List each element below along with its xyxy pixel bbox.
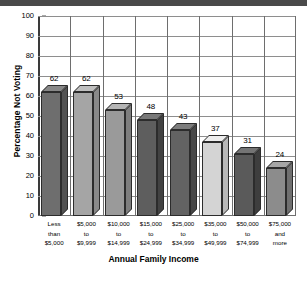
bar-front-face [170, 130, 190, 216]
bar[interactable] [202, 142, 222, 216]
bar-front-face [266, 168, 286, 216]
x-axis-tick-label-line: $74,999 [232, 238, 264, 248]
y-axis-tick-label: 80 [8, 52, 34, 60]
x-axis-tick-label-line: $24,999 [135, 238, 167, 248]
bar-value-label: 48 [131, 102, 171, 111]
x-axis-tick-label-line: Less [38, 219, 70, 229]
x-axis-tick-label: $5,000to$9,999 [70, 219, 102, 248]
x-axis-tick-label-line: $34,999 [167, 238, 199, 248]
x-axis-tick-label-line: to [103, 229, 135, 239]
y-axis-tick-label: 30 [8, 152, 34, 160]
x-axis-tick-labels: Lessthan$5,000$5,000to$9,999$10,000to$14… [38, 219, 296, 253]
x-axis-tick-label: $25,000to$34,999 [167, 219, 199, 248]
y-axis-tick-label: 20 [8, 172, 34, 180]
x-axis-tick-label-line: $5,000 [38, 238, 70, 248]
x-axis-tick-label-line: $14,999 [103, 238, 135, 248]
bar-side-face [222, 135, 229, 216]
bar-side-face [125, 103, 132, 216]
bar-side-face [286, 161, 293, 216]
x-axis-title: Annual Family Income [0, 254, 307, 264]
y-axis-tick-label: 60 [8, 92, 34, 100]
bar[interactable] [234, 154, 254, 216]
x-axis-tick-label-line: than [38, 229, 70, 239]
y-axis-tick-label: 0 [8, 212, 34, 220]
bar-chart: Percentage Not Voting 010203040506070809… [0, 6, 307, 282]
y-axis-tick-label: 100 [8, 12, 34, 20]
bar[interactable] [266, 168, 286, 216]
bar-side-face [190, 123, 197, 216]
bar-front-face [137, 120, 157, 216]
x-axis-tick-label-line: $25,000 [167, 219, 199, 229]
x-axis-tick-label-line: to [70, 229, 102, 239]
x-axis-tick-label-line: and [264, 229, 296, 239]
bar-value-label: 37 [195, 124, 235, 133]
bar-front-face [105, 110, 125, 216]
x-axis-tick-label: $75,000andmore [264, 219, 296, 248]
y-axis-tick-labels: 0102030405060708090100 [8, 16, 34, 216]
x-axis-tick-label: $50,000to$74,999 [232, 219, 264, 248]
bar-value-label: 62 [66, 74, 106, 83]
bar-side-face [61, 85, 68, 216]
bar[interactable] [137, 120, 157, 216]
x-axis-tick-label-line: $10,000 [103, 219, 135, 229]
x-axis-tick-label: Lessthan$5,000 [38, 219, 70, 248]
y-axis-tick-label: 90 [8, 32, 34, 40]
y-axis-tick-label: 70 [8, 72, 34, 80]
x-axis-tick-label: $10,000to$14,999 [103, 219, 135, 248]
bar[interactable] [73, 92, 93, 216]
x-axis-tick-label-line: more [264, 238, 296, 248]
y-axis-tick-label: 10 [8, 192, 34, 200]
bar-value-label: 31 [228, 136, 268, 145]
x-axis-tick-label-line: $75,000 [264, 219, 296, 229]
bar-front-face [41, 92, 61, 216]
bar-value-label: 24 [260, 150, 300, 159]
x-axis-tick-label-line: to [232, 229, 264, 239]
x-axis-tick-label-line: to [135, 229, 167, 239]
x-axis-tick-label-line: $9,999 [70, 238, 102, 248]
x-axis-tick-label-line: $35,000 [199, 219, 231, 229]
bar[interactable] [170, 130, 190, 216]
y-axis-tick-label: 40 [8, 132, 34, 140]
x-axis-tick-label-line: $50,000 [232, 219, 264, 229]
x-axis-tick-label-line: to [199, 229, 231, 239]
plot-area: 6262534843373124 [38, 16, 296, 216]
x-axis-tick-label-line: to [167, 229, 199, 239]
gridline-vertical [135, 16, 136, 216]
gridline-vertical [103, 16, 104, 216]
gridline-vertical [295, 16, 296, 216]
x-axis-tick-label-line: $5,000 [70, 219, 102, 229]
gridline-vertical [70, 16, 71, 216]
bar-side-face [157, 113, 164, 216]
bar-front-face [73, 92, 93, 216]
bar[interactable] [41, 92, 61, 216]
bar-front-face [234, 154, 254, 216]
gridline-vertical [264, 16, 265, 216]
gridline-vertical [232, 16, 233, 216]
bar[interactable] [105, 110, 125, 216]
bar-value-label: 53 [99, 92, 139, 101]
bar-side-face [93, 85, 100, 216]
x-axis-tick-label: $35,000to$49,999 [199, 219, 231, 248]
bar-value-label: 43 [163, 112, 203, 121]
y-axis-tick-label: 50 [8, 112, 34, 120]
bar-front-face [202, 142, 222, 216]
x-axis-tick-label-line: $15,000 [135, 219, 167, 229]
x-axis-tick-label-line: $49,999 [199, 238, 231, 248]
x-axis-tick-label: $15,000to$24,999 [135, 219, 167, 248]
